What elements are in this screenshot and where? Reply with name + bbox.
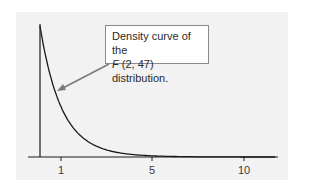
callout-line-2: F (2, 47) distribution. — [112, 57, 208, 85]
x-tick-label-5: 5 — [149, 164, 155, 176]
callout-f-symbol: F — [112, 58, 119, 70]
x-tick-label-10: 10 — [238, 164, 250, 176]
callout-line-1: Density curve of the — [112, 29, 208, 57]
x-tick-label-1: 1 — [58, 164, 64, 176]
callout-arrow-shaft — [61, 64, 109, 89]
annotation-callout: Density curve of the F (2, 47) distribut… — [105, 25, 209, 64]
callout-arrowhead — [57, 84, 66, 91]
callout-line-2-rest: (2, 47) distribution. — [112, 58, 168, 84]
